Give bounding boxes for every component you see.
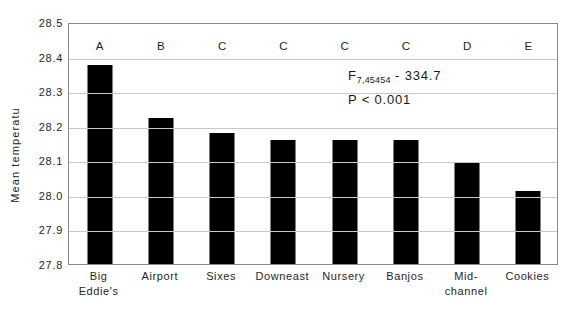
y-axis-tick-label: 28.5 bbox=[39, 17, 63, 29]
gridline bbox=[69, 197, 557, 198]
bar-group: A bbox=[69, 24, 130, 264]
bar-group: C bbox=[314, 24, 375, 264]
bar bbox=[87, 65, 112, 264]
bar-group: E bbox=[498, 24, 559, 264]
error-bar-cap-lower bbox=[463, 166, 472, 167]
y-axis-tick-label: 28.1 bbox=[39, 155, 63, 167]
f-symbol: F bbox=[348, 68, 357, 83]
x-axis-tick-label-line: Mid- bbox=[436, 269, 497, 284]
bars-layer: ABCCCCDE bbox=[69, 24, 557, 264]
error-bar-cap-upper bbox=[401, 141, 410, 142]
f-value: 334.7 bbox=[405, 68, 442, 83]
y-axis-title-text: Mean temperatu bbox=[9, 107, 21, 203]
x-axis-tick-label: Airport bbox=[129, 269, 190, 284]
group-letter: B bbox=[157, 40, 165, 52]
group-letter: C bbox=[402, 40, 410, 52]
group-letter: C bbox=[340, 40, 348, 52]
bar bbox=[332, 140, 357, 264]
group-letter: A bbox=[96, 40, 104, 52]
error-bar-cap-lower bbox=[218, 136, 227, 137]
error-bar-cap-lower bbox=[95, 69, 104, 70]
gridline bbox=[69, 93, 557, 94]
x-axis-tick-label: Nursery bbox=[313, 269, 374, 284]
bar bbox=[271, 140, 296, 264]
group-letter: D bbox=[463, 40, 471, 52]
p-value-line: P < 0.001 bbox=[348, 90, 441, 109]
error-bar-cap-upper bbox=[463, 164, 472, 165]
gridline bbox=[69, 59, 557, 60]
group-letter: E bbox=[525, 40, 533, 52]
f-separator: - bbox=[395, 68, 400, 83]
bar bbox=[516, 191, 541, 264]
error-bar-cap-lower bbox=[401, 143, 410, 144]
y-axis-tick-label: 28.4 bbox=[39, 52, 63, 64]
error-bar-cap-lower bbox=[156, 121, 165, 122]
error-bar-cap-upper bbox=[95, 65, 104, 66]
gridline bbox=[69, 162, 557, 163]
x-axis-tick-label: Sixes bbox=[191, 269, 252, 284]
x-axis-tick-label-line: channel bbox=[436, 284, 497, 299]
bar bbox=[210, 133, 235, 264]
x-axis-tick-label: Banjos bbox=[374, 269, 435, 284]
x-axis-tick-label: Big Eddie's bbox=[68, 269, 129, 299]
bar-group: B bbox=[130, 24, 191, 264]
bar-group: C bbox=[192, 24, 253, 264]
x-axis-tick-label-line: Cookies bbox=[497, 269, 558, 284]
x-axis-tick-label-line: Sixes bbox=[191, 269, 252, 284]
x-axis-tick-label-line: Banjos bbox=[374, 269, 435, 284]
gridline bbox=[69, 231, 557, 232]
error-bar-cap-lower bbox=[340, 143, 349, 144]
group-letter: C bbox=[279, 40, 287, 52]
x-axis-tick-label-line: Airport bbox=[129, 269, 190, 284]
bar bbox=[455, 163, 480, 264]
bar-group: C bbox=[375, 24, 436, 264]
plot-area: ABCCCCDE bbox=[68, 23, 558, 265]
gridline bbox=[69, 128, 557, 129]
y-axis-tick-label: 27.8 bbox=[39, 259, 63, 271]
error-bar-cap-upper bbox=[524, 192, 533, 193]
x-axis-tick-label-line: Nursery bbox=[313, 269, 374, 284]
x-axis-tick-label-line: Downeast bbox=[252, 269, 313, 284]
bar bbox=[148, 118, 173, 264]
bar-group: C bbox=[253, 24, 314, 264]
x-axis-tick-label: Cookies bbox=[497, 269, 558, 284]
y-axis-tick-label: 28.3 bbox=[39, 86, 63, 98]
bar-group: D bbox=[437, 24, 498, 264]
f-statistic-line: F7,45454 - 334.7 bbox=[348, 66, 441, 90]
x-axis-tick-label: Mid-channel bbox=[436, 269, 497, 299]
x-axis-tick-label-line: Big Eddie's bbox=[68, 269, 129, 299]
x-axis-tick-label: Downeast bbox=[252, 269, 313, 284]
x-axis-tick-labels: Big Eddie'sAirportSixesDowneastNurseryBa… bbox=[68, 269, 558, 310]
y-axis-tick-label: 28.0 bbox=[39, 190, 63, 202]
statistics-annotation: F7,45454 - 334.7 P < 0.001 bbox=[348, 66, 441, 109]
y-axis-tick-label: 28.2 bbox=[39, 121, 63, 133]
error-bar-cap-lower bbox=[279, 143, 288, 144]
error-bar-cap-lower bbox=[524, 194, 533, 195]
bar-chart-figure: Mean temperatu 28.528.428.328.228.128.02… bbox=[0, 0, 578, 310]
error-bar-cap-upper bbox=[218, 134, 227, 135]
y-axis-tick-label: 27.9 bbox=[39, 224, 63, 236]
bar bbox=[393, 140, 418, 264]
y-axis-tick-labels: 28.528.428.328.228.128.027.927.8 bbox=[24, 0, 66, 310]
f-degrees-freedom: 7,45454 bbox=[357, 75, 391, 85]
group-letter: C bbox=[218, 40, 226, 52]
